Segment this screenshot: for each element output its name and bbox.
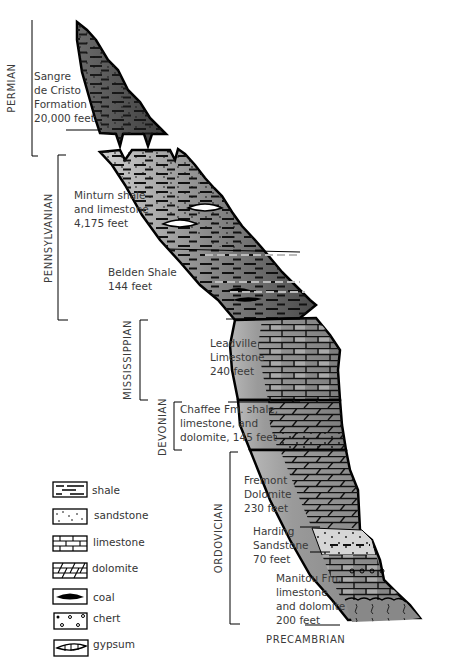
svg-text:dolomite, 145 feet: dolomite, 145 feet xyxy=(180,431,277,443)
legend-item-coal: coal xyxy=(53,589,115,604)
svg-text:Fremont: Fremont xyxy=(244,474,287,486)
legend-item-limestone: limestone xyxy=(53,536,145,551)
legend-item-dolomite: dolomite xyxy=(53,562,138,578)
period-label-pennsylvanian: PENNSYLVANIAN xyxy=(43,193,54,283)
svg-text:sandstone: sandstone xyxy=(94,509,148,521)
unit-minturn-belden xyxy=(100,149,316,320)
formation-belden: Belden Shale 144 feet xyxy=(108,266,177,292)
svg-text:Harding: Harding xyxy=(253,525,294,537)
svg-text:and dolomite: and dolomite xyxy=(276,600,345,612)
legend: shale sandstone limestone dolomite xyxy=(53,482,148,656)
svg-text:Leadville: Leadville xyxy=(210,337,257,349)
svg-text:4,175 feet: 4,175 feet xyxy=(74,217,128,229)
formation-fremont: Fremont Dolomite 230 feet xyxy=(244,474,292,514)
period-label-ordovician: ORDOVICIAN xyxy=(213,503,224,573)
svg-text:and limestone: and limestone xyxy=(74,203,149,215)
sandstone-pattern-icon xyxy=(53,509,87,524)
svg-text:coal: coal xyxy=(93,591,115,603)
svg-text:Minturn shale: Minturn shale xyxy=(74,189,145,201)
bracket-ordovician xyxy=(230,452,240,624)
svg-text:Sangre: Sangre xyxy=(34,70,71,82)
svg-text:Formation: Formation xyxy=(34,98,87,110)
svg-text:dolomite: dolomite xyxy=(92,562,138,574)
svg-text:de Cristo: de Cristo xyxy=(34,84,81,96)
limestone-pattern-icon xyxy=(53,536,87,551)
svg-text:Chaffee Fm. shale,: Chaffee Fm. shale, xyxy=(180,403,278,415)
svg-text:limestone: limestone xyxy=(276,586,328,598)
legend-item-chert: chert xyxy=(54,612,120,629)
stratigraphic-column-diagram: PERMIAN PENNSYLVANIAN MISSISSIPPIAN DEVO… xyxy=(0,0,470,669)
svg-text:240 feet: 240 feet xyxy=(210,365,254,377)
svg-text:200 feet: 200 feet xyxy=(276,614,320,626)
svg-text:gypsum: gypsum xyxy=(93,638,135,650)
legend-item-sandstone: sandstone xyxy=(53,509,148,524)
svg-text:limestone: limestone xyxy=(93,536,145,548)
bracket-mississippian xyxy=(140,320,148,400)
svg-text:shale: shale xyxy=(92,484,120,496)
gypsum-pattern-icon xyxy=(54,640,88,656)
basement-label-precambrian: PRECAMBRIAN xyxy=(266,634,345,645)
svg-text:Sandstone: Sandstone xyxy=(253,539,309,551)
legend-item-gypsum: gypsum xyxy=(54,638,135,656)
period-label-devonian: DEVONIAN xyxy=(157,398,168,456)
shale-pattern-icon xyxy=(53,482,87,497)
chert-pattern-icon xyxy=(54,613,87,629)
coal-pattern-icon xyxy=(53,589,87,604)
dolomite-pattern-icon xyxy=(53,563,87,578)
svg-text:144 feet: 144 feet xyxy=(108,280,152,292)
svg-text:chert: chert xyxy=(93,612,120,624)
legend-item-shale: shale xyxy=(53,482,120,497)
svg-text:Limestone: Limestone xyxy=(210,351,265,363)
bracket-pennsylvanian xyxy=(58,155,68,320)
svg-text:limestone, and: limestone, and xyxy=(180,417,258,429)
svg-text:230 feet: 230 feet xyxy=(244,502,288,514)
svg-text:Belden Shale: Belden Shale xyxy=(108,266,177,278)
rock-column xyxy=(66,22,420,625)
svg-text:20,000 feet: 20,000 feet xyxy=(34,112,95,124)
svg-text:Dolomite: Dolomite xyxy=(244,488,292,500)
svg-text:Manitou Fm.: Manitou Fm. xyxy=(276,572,341,584)
svg-text:70 feet: 70 feet xyxy=(253,553,290,565)
period-label-mississippian: MISSISSIPPIAN xyxy=(122,320,133,400)
period-label-permian: PERMIAN xyxy=(6,63,17,112)
formation-minturn: Minturn shale and limestone 4,175 feet xyxy=(74,189,149,229)
